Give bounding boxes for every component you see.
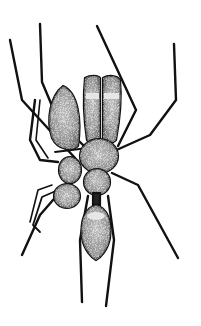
leg-right-rear [112,173,178,258]
chelicera-left-band [86,93,99,99]
body [49,76,120,260]
chelicera-right-band [104,93,119,99]
spider-illustration: ant-mimicking spider illustration [0,0,201,326]
leg-left-mid-b [36,100,48,158]
spider-drawing [0,0,201,326]
abdomen-highlight [87,212,105,220]
pedicel [93,193,100,205]
